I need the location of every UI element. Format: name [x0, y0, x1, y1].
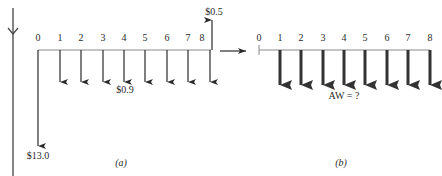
aw-arrows: [280, 50, 430, 85]
period-label-a-5: 5: [143, 33, 148, 43]
left-edge-line: [8, 8, 18, 176]
diagram-b: [259, 45, 430, 85]
period-label-a-6: 6: [165, 33, 170, 43]
period-label-b-7: 7: [406, 33, 411, 43]
aw-label: AW = ?: [329, 91, 360, 101]
period-label-a-1: 1: [58, 33, 63, 43]
period-label-a-3: 3: [101, 33, 106, 43]
period-label-b-3: 3: [321, 33, 326, 43]
period-label-b-2: 2: [299, 33, 304, 43]
period-label-b-5: 5: [363, 33, 368, 43]
period-label-a-2: 2: [79, 33, 84, 43]
period-label-b-0: 0: [257, 33, 262, 43]
period-label-a-8: 8: [200, 33, 205, 43]
period-label-b-8: 8: [428, 33, 433, 43]
period-label-a-7: 7: [186, 33, 191, 43]
caption-a: (a): [115, 158, 127, 168]
caption-b: (b): [335, 158, 347, 168]
initial-cost-label: $13.0: [27, 151, 50, 161]
annual-cost-arrows: [60, 50, 210, 82]
period-label-a-4: 4: [122, 33, 127, 43]
annual-cost-label: $0.9: [116, 85, 134, 95]
period-label-b-6: 6: [385, 33, 390, 43]
period-label-b-1: 1: [278, 33, 283, 43]
period-label-a-0: 0: [36, 33, 41, 43]
cash-flow-diagrams: [0, 0, 442, 176]
salvage-value-label: $0.5: [205, 7, 223, 17]
period-label-b-4: 4: [342, 33, 347, 43]
